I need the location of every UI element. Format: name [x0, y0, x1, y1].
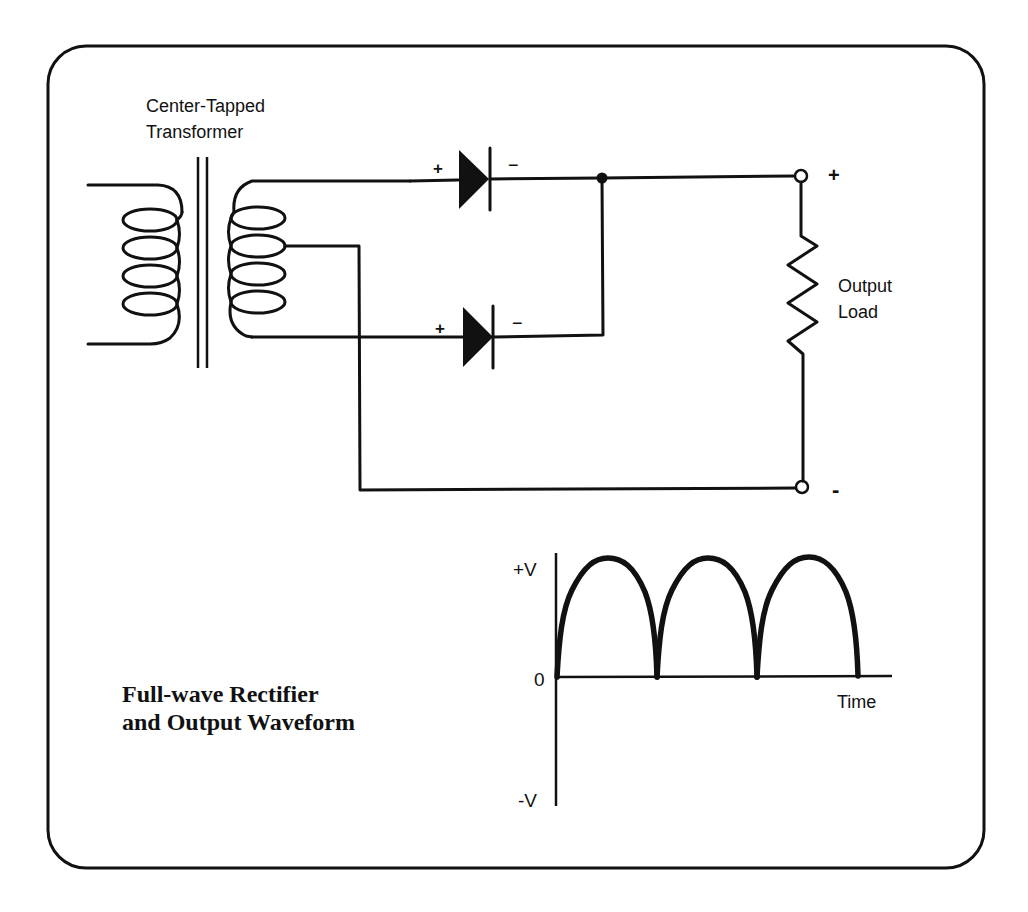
lower-diode-anode-label: +	[435, 319, 445, 338]
transformer-label-line1: Center-Tapped	[146, 96, 265, 116]
figure-title-line2: and Output Waveform	[122, 709, 355, 735]
positive-terminal-icon	[795, 170, 807, 182]
waveform-half-cycle-2	[657, 558, 757, 677]
figure-title-line1: Full-wave Rectifier	[122, 681, 319, 707]
output-waveform-graph	[556, 553, 892, 806]
wire-center-tap	[285, 246, 796, 490]
secondary-winding-icon	[229, 181, 411, 337]
time-axis	[556, 676, 892, 677]
lower-diode-icon	[463, 306, 493, 368]
load-label-line2: Load	[838, 302, 878, 322]
wire-lower-return	[493, 178, 603, 337]
transformer-core-icon	[198, 157, 207, 368]
lower-diode-cathode-label: −	[512, 313, 523, 333]
negative-terminal-label: -	[832, 477, 839, 502]
waveform-half-cycle-3	[757, 557, 858, 677]
wire-upper-anode	[410, 180, 458, 181]
transformer-label-line2: Transformer	[146, 122, 243, 142]
y-label-minus-v: -V	[518, 790, 537, 811]
resistor-icon	[788, 182, 817, 481]
y-label-zero: 0	[534, 669, 545, 690]
wire-positive-rail	[490, 176, 795, 179]
load-label-line1: Output	[838, 276, 892, 296]
full-wave-rectifier-figure: Center-Tapped Transformer + − + −	[0, 0, 1028, 912]
upper-diode-icon	[459, 148, 490, 210]
waveform-half-cycle-1	[557, 558, 657, 677]
upper-diode-anode-label: +	[433, 159, 443, 178]
upper-diode-cathode-label: −	[508, 155, 519, 175]
negative-terminal-icon	[796, 481, 808, 493]
primary-winding-icon	[88, 185, 182, 344]
y-label-plus-v: +V	[513, 559, 537, 580]
x-label-time: Time	[837, 692, 876, 712]
positive-terminal-label: +	[828, 164, 840, 186]
